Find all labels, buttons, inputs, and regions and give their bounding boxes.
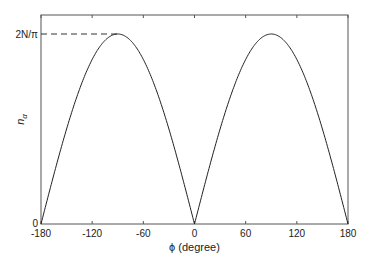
chart: -180-120-6006012018002N/πϕ (degree)nα (0, 0, 370, 265)
x-axis-label: ϕ (degree) (169, 241, 220, 253)
x-tick-label: 180 (340, 228, 357, 239)
x-tick-label: 60 (240, 228, 252, 239)
y-tick-label-zero: 0 (32, 218, 38, 229)
x-tick-label: -180 (31, 228, 51, 239)
x-tick-label: -60 (136, 228, 151, 239)
y-tick-label-peak: 2N/π (16, 29, 39, 40)
plot-frame (41, 15, 348, 224)
x-tick-label: 120 (288, 228, 305, 239)
data-curve (41, 34, 348, 224)
x-tick-label: -120 (82, 228, 102, 239)
x-tick-label: 0 (192, 228, 198, 239)
plot-area: -180-120-6006012018002N/πϕ (degree)nα (14, 15, 357, 253)
y-axis-label-subscript: α (20, 114, 29, 119)
y-axis-label: nα (14, 114, 29, 125)
